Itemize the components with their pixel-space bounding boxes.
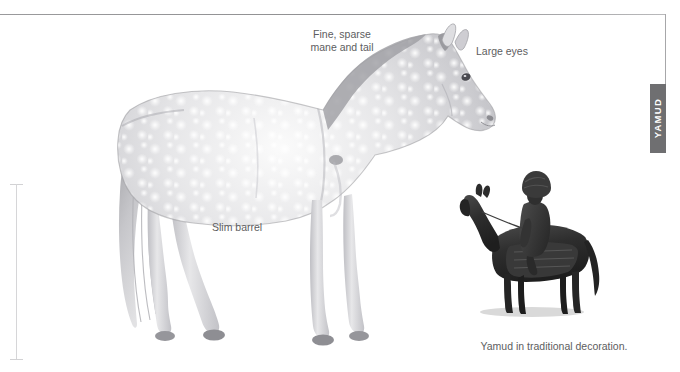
inset-horse-neck-head (464, 195, 500, 252)
horse-ear-far (455, 30, 468, 50)
breed-tab-yamud[interactable]: YAMUD (650, 84, 666, 153)
inset-horse-muzzle (460, 199, 470, 216)
inset-caption: Yamud in traditional decoration. (446, 340, 662, 353)
horse-front-leg-far (343, 194, 364, 333)
inset-rider-illustration (452, 160, 610, 325)
height-measure-bottom-cap (10, 359, 23, 360)
horse-profile-svg (18, 22, 518, 352)
callout-label-mane: Fine, sparse mane and tail (283, 28, 401, 53)
clipped-heading-remnant (120, 0, 540, 3)
ground-shadow (480, 307, 584, 317)
inset-horse-leg-hl (572, 271, 581, 313)
inset-horse-ear-a (476, 184, 483, 197)
page-frame-top-rule (0, 14, 666, 15)
horse-hind-leg-far (148, 200, 172, 334)
horse-hoof-hind-near (203, 330, 225, 341)
horse-eye-highlight (464, 75, 467, 77)
callout-label-eyes: Large eyes (476, 45, 566, 58)
callout-label-barrel: Slim barrel (212, 221, 318, 234)
rider-on-horse-svg (452, 160, 610, 325)
breed-tab-label: YAMUD (653, 98, 663, 138)
horse-hoof-hind-far (155, 331, 175, 341)
horse-hoof-front-far (349, 331, 369, 341)
inset-horse-ear-b (483, 185, 490, 198)
horse-hoof-front-near (312, 335, 334, 346)
main-horse-illustration (18, 22, 518, 352)
rider-telpek-hat (522, 171, 551, 198)
inset-horse-leg-hr (560, 274, 568, 314)
horse-ear-near (442, 24, 456, 47)
height-measure-stem (16, 184, 17, 360)
